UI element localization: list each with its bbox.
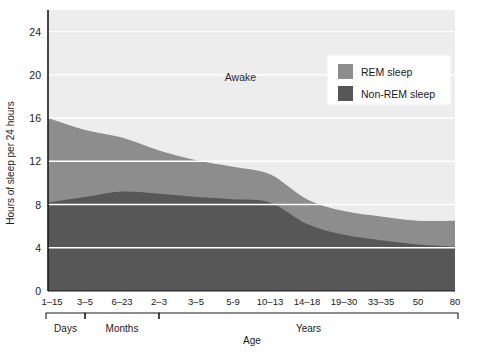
group-label-years: Years	[296, 323, 321, 334]
y-axis-title: Hours of sleep per 24 hours	[5, 101, 16, 224]
chart-canvas: 04812162024 1–153–56–232–33–55-910–1314–…	[0, 0, 480, 357]
group-label-days: Days	[54, 323, 77, 334]
y-tick-label-24: 24	[29, 26, 41, 38]
annotation-awake: Awake	[225, 71, 256, 83]
x-tick-label-5: 5-9	[226, 296, 240, 307]
group-label-months: Months	[106, 323, 139, 334]
x-tick-label-7: 14–18	[294, 296, 320, 307]
y-tick-label-8: 8	[35, 199, 41, 211]
x-tick-label-3: 2–3	[151, 296, 167, 307]
x-tick-label-10: 50	[413, 296, 424, 307]
legend-swatch-0	[338, 64, 353, 79]
y-tick-label-12: 12	[29, 155, 41, 167]
x-tick-label-0: 1–15	[41, 296, 62, 307]
legend-label-1: Non-REM sleep	[361, 88, 435, 100]
x-tick-label-6: 10–13	[257, 296, 283, 307]
x-axis-group-brackets: DaysMonthsYears	[46, 313, 458, 334]
y-tick-label-16: 16	[29, 112, 41, 124]
legend-label-0: REM sleep	[361, 66, 413, 78]
y-tick-label-4: 4	[35, 242, 41, 254]
chart-annotations: Awake	[225, 71, 256, 83]
x-tick-label-9: 33–35	[368, 296, 394, 307]
x-tick-label-11: 80	[450, 296, 461, 307]
x-tick-label-4: 3–5	[188, 296, 204, 307]
x-tick-label-2: 6–23	[111, 296, 132, 307]
chart-legend: REM sleepNon-REM sleep	[328, 56, 450, 104]
x-axis-title: Age	[243, 335, 261, 346]
group-bracket-years	[159, 313, 458, 319]
x-axis-tick-labels: 1–153–56–232–33–55-910–1314–1819–3033–35…	[41, 296, 460, 307]
legend-swatch-1	[338, 86, 353, 101]
group-bracket-months	[85, 313, 159, 319]
y-tick-label-0: 0	[35, 285, 41, 297]
y-tick-label-20: 20	[29, 69, 41, 81]
sleep-stages-chart-figure: 04812162024 1–153–56–232–33–55-910–1314–…	[0, 0, 480, 357]
group-bracket-days	[46, 313, 85, 319]
x-tick-label-1: 3–5	[77, 296, 93, 307]
y-axis-tick-labels: 04812162024	[29, 26, 41, 297]
x-tick-label-8: 19–30	[331, 296, 357, 307]
